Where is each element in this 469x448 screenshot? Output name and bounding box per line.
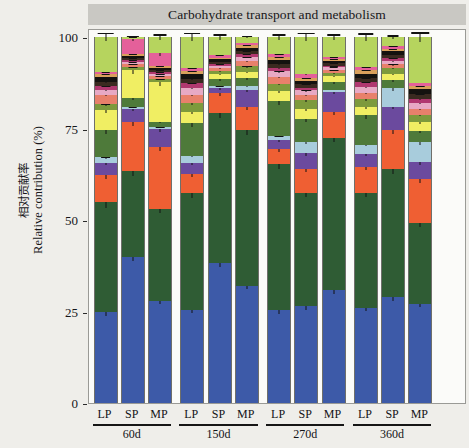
bar-segment-yellow <box>149 82 171 122</box>
bar-segment-purple <box>295 153 317 168</box>
bar-LP-360d[interactable] <box>354 37 378 403</box>
y-tick-label-50: 50 <box>34 213 78 229</box>
bar-segment-orange <box>295 169 317 193</box>
bar-segment-dark_green <box>209 113 231 263</box>
bar-SP-60d[interactable] <box>121 37 145 403</box>
bar-LP-150d[interactable] <box>180 37 204 403</box>
y-axis-label-en: Relative contribution (%) <box>31 80 47 300</box>
chart-title-banner: Carbohydrate transport and metabolism <box>88 4 466 25</box>
bar-LP-270d[interactable] <box>267 37 291 403</box>
bar-segment-orange <box>323 112 345 138</box>
bar-segment-yellow_green <box>181 37 203 68</box>
y-axis-label-cn: 相对贡献率 <box>17 80 31 300</box>
bars-layer <box>89 30 465 403</box>
bar-segment-dark_green <box>122 171 144 257</box>
x-tick-label-8: MP <box>324 407 341 422</box>
bar-segment-yellow <box>122 70 144 97</box>
group-rule-360d <box>353 424 431 426</box>
bar-MP-360d[interactable] <box>408 37 432 403</box>
bar-segment-yellow_green <box>95 37 117 72</box>
bar-segment-mid_green <box>355 115 377 144</box>
bar-segment-purple <box>323 92 345 112</box>
x-tick-label-5: MP <box>237 407 254 422</box>
bar-segment-light_blue <box>409 142 431 162</box>
bar-segment-dark_green <box>181 193 203 310</box>
page-title: Carbohydrate transport and metabolism <box>168 7 386 23</box>
bar-segment-blue <box>355 308 377 403</box>
bar-segment-blue <box>181 310 203 403</box>
bar-segment-blue <box>268 310 290 403</box>
plot-area <box>88 29 466 404</box>
bar-SP-270d[interactable] <box>294 37 318 403</box>
x-tick-label-11: MP <box>411 407 428 422</box>
bar-segment-mid_green <box>295 119 317 143</box>
error-bar-cap <box>242 36 252 38</box>
group-rule-150d <box>179 424 257 426</box>
bar-segment-orange <box>122 122 144 171</box>
bar-segment-orange <box>382 130 404 168</box>
x-tick-label-10: SP <box>385 407 398 422</box>
bar-segment-dark_green <box>355 193 377 308</box>
y-axis-label: 相对贡献率 Relative contribution (%) <box>17 80 47 300</box>
bar-segment-blue <box>382 297 404 403</box>
bar-SP-150d[interactable] <box>208 37 232 403</box>
bar-MP-150d[interactable] <box>235 37 259 403</box>
group-label-360d: 360d <box>380 427 404 442</box>
bar-MP-270d[interactable] <box>322 37 346 403</box>
group-label-150d: 150d <box>207 427 231 442</box>
bar-segment-dark_green <box>236 130 258 286</box>
bar-segment-blue <box>95 312 117 403</box>
bar-segment-blue <box>209 263 231 403</box>
bar-segment-yellow_green <box>323 37 345 57</box>
y-tick-label-0: 0 <box>34 396 78 412</box>
bar-segment-mid_green <box>268 101 290 136</box>
error-bar-cap <box>327 34 340 36</box>
error-bar-cap <box>213 34 226 36</box>
bar-LP-60d[interactable] <box>94 37 118 403</box>
bar-segment-yellow_green <box>355 37 377 67</box>
bar-segment-blue <box>149 301 171 403</box>
bar-segment-mid_green <box>181 123 203 156</box>
x-tick-label-1: SP <box>125 407 138 422</box>
error-bar-cap <box>97 33 114 35</box>
bar-segment-dark_green <box>268 164 290 310</box>
bar-segment-purple <box>236 90 258 106</box>
bar-segment-orange <box>95 175 117 202</box>
error-bar-cap <box>388 35 399 37</box>
bar-segment-purple <box>409 162 431 179</box>
bar-segment-orange <box>149 147 171 209</box>
bar-segment-blue <box>236 286 258 403</box>
x-tick-label-7: SP <box>299 407 312 422</box>
x-tick-label-4: SP <box>212 407 225 422</box>
bar-SP-360d[interactable] <box>381 37 405 403</box>
bar-segment-yellow_green <box>295 37 317 74</box>
group-rule-60d <box>93 424 171 426</box>
chart-root: Carbohydrate transport and metabolism 相对… <box>0 0 469 448</box>
y-tick-mark-0 <box>83 404 87 405</box>
bar-MP-60d[interactable] <box>148 37 172 403</box>
error-bar-cap <box>358 33 373 35</box>
x-tick-label-2: MP <box>150 407 167 422</box>
y-tick-mark-100 <box>83 38 87 39</box>
bar-segment-orange <box>409 179 431 223</box>
bar-segment-dark_green <box>149 209 171 301</box>
bar-segment-purple <box>382 107 404 131</box>
bar-segment-blue <box>409 304 431 403</box>
bar-segment-blue <box>323 290 345 403</box>
bar-segment-light_blue <box>382 88 404 106</box>
bar-segment-yellow <box>95 110 117 130</box>
y-tick-mark-25 <box>83 313 87 314</box>
error-bar-cap <box>129 36 137 38</box>
y-tick-label-25: 25 <box>34 305 78 321</box>
y-tick-mark-50 <box>83 221 87 222</box>
y-tick-mark-75 <box>83 130 87 131</box>
bar-segment-purple <box>149 129 171 147</box>
bar-segment-dark_green <box>295 193 317 306</box>
error-bar-cap <box>298 33 315 35</box>
bar-segment-orange <box>236 107 258 131</box>
error-bar-cap <box>273 34 286 36</box>
bar-segment-orange <box>355 167 377 193</box>
y-tick-label-100: 100 <box>34 30 78 46</box>
x-tick-label-9: LP <box>358 407 372 422</box>
bar-segment-blue <box>295 306 317 403</box>
